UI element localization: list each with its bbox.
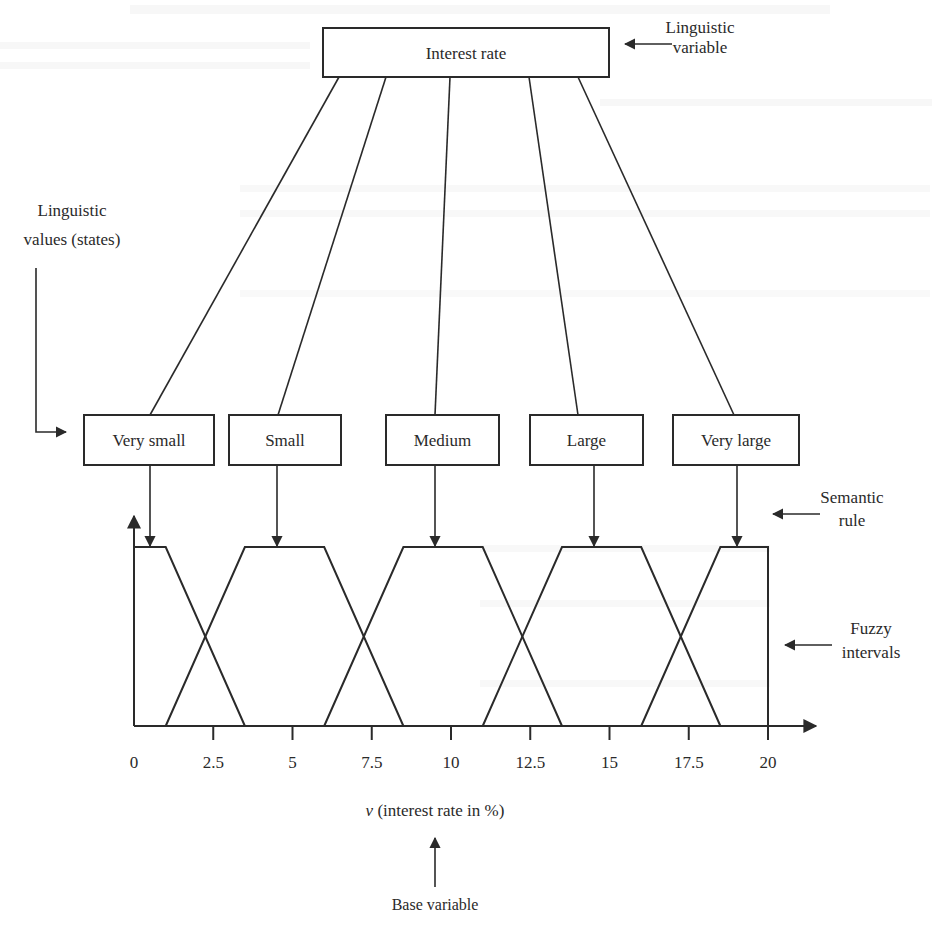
annotation-text: Semantic [820, 488, 884, 507]
membership-very-small [134, 547, 245, 726]
link-line [529, 77, 578, 415]
annotation-linguistic-variable: Linguistic variable [625, 18, 735, 57]
x-tick-label: 7.5 [361, 753, 382, 772]
root-to-value-links [150, 77, 734, 415]
link-line [150, 77, 339, 415]
x-tick-label: 0 [130, 753, 139, 772]
root-node-label: Interest rate [426, 44, 507, 63]
bleed-through-texture [0, 5, 932, 687]
link-line [435, 77, 450, 415]
membership-functions [134, 547, 768, 726]
membership-medium [324, 547, 562, 726]
annotation-fuzzy-intervals: Fuzzy intervals [785, 619, 900, 662]
x-tick-label: 12.5 [515, 753, 545, 772]
annotation-text: Linguistic [38, 201, 107, 220]
x-tick-label: 5 [288, 753, 297, 772]
annotation-base-variable: Base variable [392, 838, 479, 913]
annotation-text: values (states) [24, 230, 121, 249]
annotation-text: intervals [842, 643, 901, 662]
annotation-text: rule [839, 511, 865, 530]
annotation-text: Fuzzy [850, 619, 892, 638]
value-node-small: Small [229, 415, 341, 465]
value-node-label: Very small [112, 431, 185, 450]
linguistic-value-nodes: Very smallSmallMediumLargeVery large [84, 415, 799, 465]
fuzzy-variable-diagram: Interest rate Very smallSmallMediumLarge… [0, 0, 932, 936]
value-node-large: Large [530, 415, 643, 465]
membership-very-large [641, 547, 768, 726]
fuzzy-intervals-plot: 02.557.51012.51517.520 v (interest rate … [130, 516, 816, 820]
x-tick-label: 2.5 [203, 753, 224, 772]
elbow-arrow-icon [36, 268, 66, 432]
annotation-text: Linguistic [666, 18, 735, 37]
value-node-label: Medium [414, 431, 472, 450]
value-node-label: Very large [701, 431, 771, 450]
value-node-very-large: Very large [673, 415, 799, 465]
annotation-linguistic-values: Linguistic values (states) [24, 201, 121, 432]
link-line [278, 77, 386, 415]
x-tick-label: 17.5 [674, 753, 704, 772]
annotation-text: variable [673, 38, 728, 57]
annotation-text: Base variable [392, 896, 479, 913]
annotation-semantic-rule: Semantic rule [773, 488, 884, 530]
x-tick-label: 20 [760, 753, 777, 772]
x-axis-label: v (interest rate in %) [366, 801, 505, 820]
x-axis-ticks [213, 726, 768, 740]
value-node-label: Small [265, 431, 305, 450]
axis-description: (interest rate in %) [373, 801, 504, 820]
link-line [578, 77, 734, 415]
x-axis-tick-labels: 02.557.51012.51517.520 [130, 753, 777, 772]
value-node-very-small: Very small [84, 415, 214, 465]
membership-small [166, 547, 404, 726]
value-node-label: Large [567, 431, 606, 450]
root-node-interest-rate: Interest rate [323, 28, 609, 77]
x-tick-label: 10 [443, 753, 460, 772]
semantic-rule-arrows [150, 465, 737, 546]
x-tick-label: 15 [601, 753, 618, 772]
value-node-medium: Medium [386, 415, 499, 465]
membership-large [483, 547, 721, 726]
